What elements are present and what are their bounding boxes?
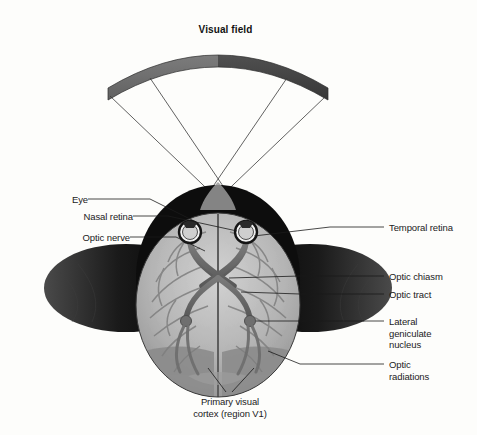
label-eye: Eye xyxy=(0,194,88,206)
brain xyxy=(136,213,300,400)
label-optic-radiations: Optic radiations xyxy=(389,359,429,382)
figure-title: Visual field xyxy=(0,24,451,35)
visual-field-arc xyxy=(108,55,328,100)
label-lateral-geniculate-nucleus: Lateral geniculate nucleus xyxy=(389,316,431,351)
label-primary-visual-cortex: Primary visual cortex (region V1) xyxy=(150,396,310,419)
label-temporal-retina: Temporal retina xyxy=(389,222,453,234)
lgn-right xyxy=(245,316,256,327)
label-nasal-retina: Nasal retina xyxy=(0,211,133,223)
label-optic-nerve: Optic nerve xyxy=(0,232,130,244)
label-optic-tract: Optic tract xyxy=(389,289,431,301)
right-eye xyxy=(235,221,257,244)
label-optic-chiasm: Optic chiasm xyxy=(389,271,443,283)
lgn-left xyxy=(181,316,192,327)
